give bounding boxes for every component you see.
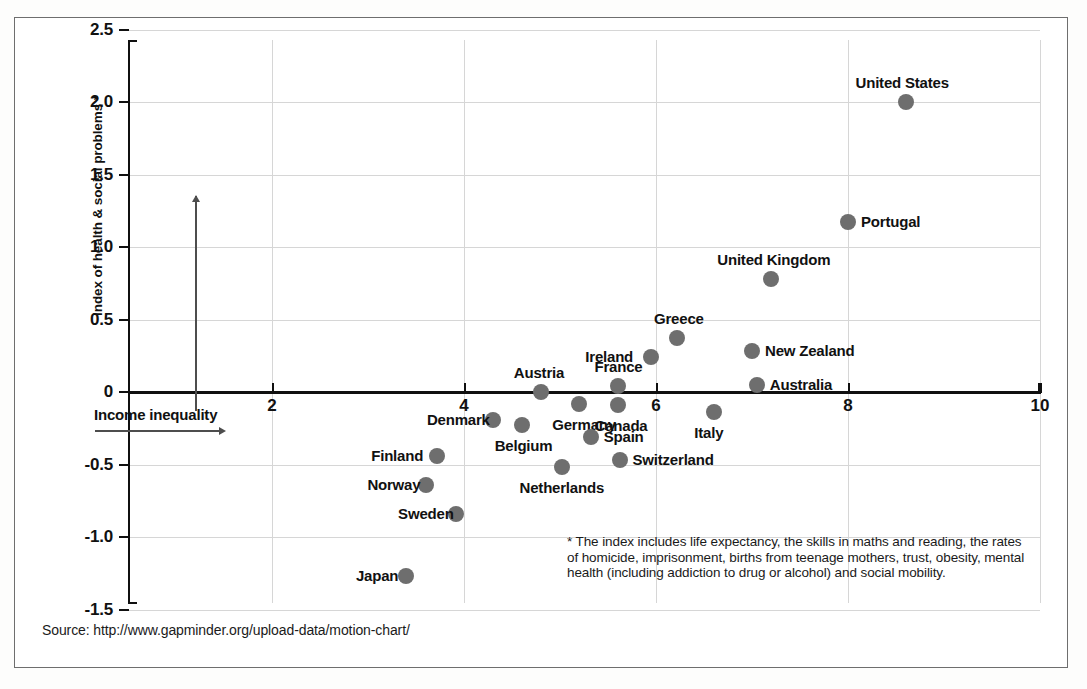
- y-axis-tick-label: 0: [53, 382, 113, 402]
- data-point-label: Italy: [694, 424, 723, 441]
- x-axis-tick-label: 2: [252, 396, 292, 416]
- data-point-label: Switzerland: [633, 451, 714, 468]
- y-axis-tick: [119, 536, 129, 538]
- gridline-horizontal: [128, 320, 1040, 321]
- data-point: [533, 384, 549, 400]
- data-point: [583, 429, 599, 445]
- data-point-label: United Kingdom: [717, 251, 830, 268]
- x-axis-tick: [272, 383, 274, 393]
- data-point: [763, 271, 779, 287]
- data-point-label: Austria: [514, 364, 564, 381]
- y-axis-tick-label: -1.5: [53, 600, 113, 620]
- data-point: [669, 330, 685, 346]
- data-point: [610, 378, 626, 394]
- y-axis-cap-bottom: [128, 602, 137, 604]
- x-axis-title: Income inequality: [94, 406, 217, 423]
- x-axis-tick-label: 10: [1020, 396, 1060, 416]
- data-point: [610, 397, 626, 413]
- y-axis-title: Index of health & social problems *: [90, 88, 105, 324]
- footnote-text: * The index includes life expectancy, th…: [567, 534, 1027, 581]
- data-point: [571, 396, 587, 412]
- data-point: [554, 459, 570, 475]
- data-point-label: New Zealand: [765, 342, 855, 359]
- y-axis-tick-label: -1.0: [53, 527, 113, 547]
- x-axis-direction-arrow-icon: [95, 430, 220, 432]
- y-axis-tick: [119, 174, 129, 176]
- y-axis-tick: [119, 101, 129, 103]
- y-axis-direction-arrow-icon: [195, 196, 197, 411]
- source-text: Source: http://www.gapminder.org/upload-…: [42, 622, 410, 638]
- y-axis-tick-label: -0.5: [53, 455, 113, 475]
- data-point: [612, 452, 628, 468]
- y-axis-tick: [119, 391, 129, 393]
- y-axis-line: [128, 40, 130, 604]
- gridline-vertical: [1040, 40, 1041, 603]
- y-axis-tick: [119, 609, 129, 611]
- data-point-label: Greece: [654, 310, 704, 327]
- data-point: [744, 343, 760, 359]
- gridline-horizontal: [128, 610, 1040, 611]
- data-point-label: Belgium: [495, 437, 553, 454]
- data-point-label: Norway: [367, 476, 420, 493]
- data-point: [429, 448, 445, 464]
- y-axis-tick: [119, 319, 129, 321]
- data-point: [749, 377, 765, 393]
- figure: -1.5-1.0-0.500.51.01.52.02.5 246810 Inde…: [0, 0, 1087, 689]
- data-point-label: Finland: [371, 447, 423, 464]
- y-axis-tick: [119, 29, 129, 31]
- gridline-horizontal: [128, 30, 1040, 31]
- x-axis-line: [128, 391, 1041, 394]
- x-axis-tick: [656, 383, 658, 393]
- x-axis-tick: [1040, 383, 1042, 393]
- gridline-vertical: [272, 40, 273, 603]
- data-point: [898, 94, 914, 110]
- gridline-vertical: [464, 40, 465, 603]
- gridline-horizontal: [128, 247, 1040, 248]
- data-point: [514, 417, 530, 433]
- data-point: [706, 404, 722, 420]
- data-point-label: Portugal: [861, 213, 920, 230]
- y-axis-tick: [119, 246, 129, 248]
- y-axis-title-group: Index of health & social problems *: [82, 95, 108, 325]
- x-axis-tick-label: 6: [636, 396, 676, 416]
- scatter-plot: -1.5-1.0-0.500.51.01.52.02.5 246810 Inde…: [0, 0, 1087, 689]
- gridline-vertical: [848, 40, 849, 603]
- x-axis-tick-label: 8: [828, 396, 868, 416]
- y-axis-tick-label: 2.5: [53, 20, 113, 40]
- y-axis-cap-top: [128, 40, 137, 42]
- y-axis-tick: [119, 464, 129, 466]
- data-point-label: Spain: [604, 428, 644, 445]
- gridline-horizontal: [128, 465, 1040, 466]
- data-point-label: Australia: [770, 376, 832, 393]
- data-point-label: United States: [856, 74, 949, 91]
- data-point: [398, 568, 414, 584]
- gridline-horizontal: [128, 175, 1040, 176]
- data-point-label: Denmark: [427, 411, 490, 428]
- data-point-label: Sweden: [398, 505, 453, 522]
- x-axis-tick: [848, 383, 850, 393]
- data-point-label: Japan: [356, 567, 398, 584]
- data-point: [840, 214, 856, 230]
- data-point-label: Netherlands: [520, 479, 605, 496]
- data-point-label: France: [595, 358, 643, 375]
- x-axis-tick: [464, 383, 466, 393]
